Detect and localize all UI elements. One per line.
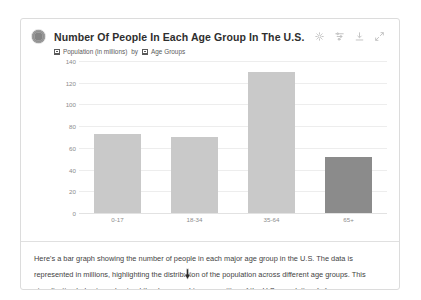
chart-header: Number Of People In Each Age Group In Th…: [53, 25, 391, 59]
legend-category-icon: [142, 49, 148, 55]
legend-connector: by: [131, 48, 138, 55]
x-axis-label: 18-34: [156, 216, 233, 223]
insights-icon[interactable]: [314, 31, 325, 42]
x-axis-label: 65+: [310, 216, 387, 223]
y-axis-tick: 60: [69, 144, 76, 151]
answer-paragraph: Here's a bar graph showing the number of…: [34, 251, 389, 290]
filter-icon[interactable]: [334, 31, 345, 42]
bar-slot: [310, 61, 387, 213]
bar-series: [79, 61, 387, 213]
y-axis-tick: 40: [69, 166, 76, 173]
bar-chart: Number Of People In Each Age Group In Th…: [53, 25, 391, 237]
y-axis: 020406080100120140: [53, 61, 79, 213]
chart-title: Number Of People In Each Age Group In Th…: [54, 31, 304, 43]
bar-18-34[interactable]: [171, 137, 218, 213]
legend-series-label: Population (in millions): [63, 48, 127, 55]
y-axis-tick: 20: [69, 188, 76, 195]
y-axis-tick: 140: [66, 58, 76, 65]
bar-slot: [79, 61, 156, 213]
x-axis-label: 35-64: [233, 216, 310, 223]
chart-legend: Population (in millions) by Age Groups: [54, 48, 185, 55]
plot-area: 020406080100120140 0-1718-3435-6465+: [53, 61, 391, 237]
download-icon[interactable]: [354, 31, 365, 42]
y-axis-tick: 100: [66, 101, 76, 108]
x-axis: 0-1718-3435-6465+: [79, 216, 387, 223]
bar-0-17[interactable]: [94, 134, 141, 213]
bar-65+[interactable]: [325, 157, 372, 213]
legend-category-label: Age Groups: [151, 48, 185, 55]
expand-icon[interactable]: [374, 31, 385, 42]
y-axis-tick: 120: [66, 79, 76, 86]
y-axis-tick: 80: [69, 123, 76, 130]
citation-marker[interactable]: [↗]: [317, 287, 327, 290]
bar-slot: [233, 61, 310, 213]
answer-body: Here's a bar graph showing the number of…: [34, 254, 366, 290]
legend-series-icon: [54, 49, 60, 55]
card-divider: [21, 241, 399, 242]
assistant-response-card: Number Of People In Each Age Group In Th…: [20, 18, 400, 290]
y-axis-tick: 0: [73, 210, 76, 217]
bar-35-64[interactable]: [248, 72, 295, 213]
grid-line: [79, 213, 387, 214]
assistant-avatar-icon: [31, 29, 46, 44]
bar-slot: [156, 61, 233, 213]
chart-toolbar: [314, 31, 385, 42]
x-axis-label: 0-17: [79, 216, 156, 223]
